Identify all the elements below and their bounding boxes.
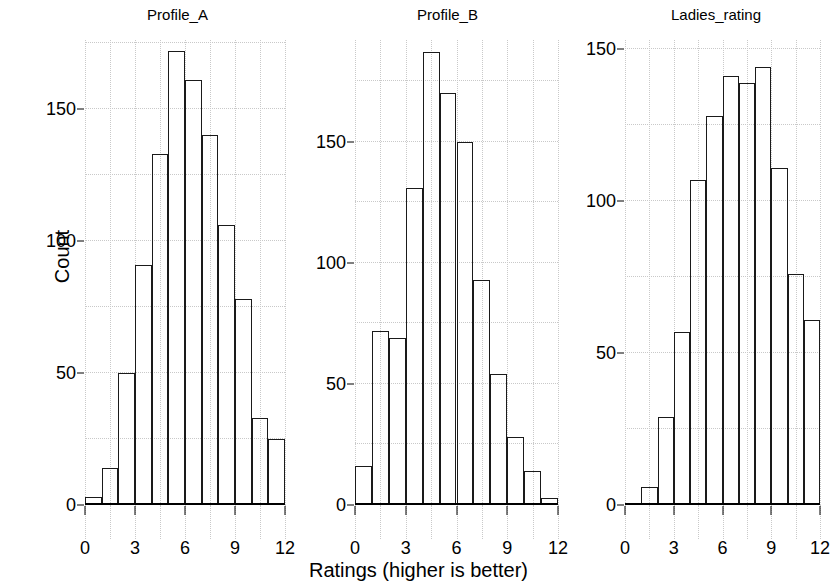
x-tick-label-profile-a-0: 0 [80,538,90,559]
histogram-bar [690,180,706,505]
histogram-bar [268,439,285,505]
gridline-vertical [820,40,821,505]
histogram-bar [507,437,524,505]
gridline-vertical [558,40,559,505]
histogram-bar [372,331,389,505]
histogram-bar [423,52,440,505]
histogram-bar [706,116,722,505]
x-tick-mark [355,506,356,515]
y-tick-mark [617,201,624,202]
y-tick-label-profile-a-100: 100 [46,230,76,251]
histogram-bar [440,93,457,505]
y-tick-mark [77,505,84,506]
panel-profile-b: Profile_B 150100500036912 [325,0,570,583]
y-tick-mark [77,372,84,373]
x-tick-label-ladies-rating-6: 6 [717,538,727,559]
gridline-vertical-extension [431,505,432,539]
y-tick-label-profile-a-50: 50 [56,362,76,383]
histogram-bar [218,225,235,505]
histogram-bar [355,466,372,505]
x-tick-label-ladies-rating-3: 3 [669,538,679,559]
gridline-vertical [110,40,111,505]
x-tick-label-profile-b-9: 9 [502,538,512,559]
y-tick-mark [617,505,624,506]
panel-title-profile-b: Profile_B [325,6,570,23]
y-tick-mark [77,240,84,241]
x-tick-mark [235,506,236,515]
x-tick-label-ladies-rating-0: 0 [620,538,630,559]
y-tick-mark [347,262,354,263]
x-tick-label-ladies-rating-12: 12 [810,538,830,559]
histogram-bar [235,299,252,505]
histogram-bar [168,51,185,505]
y-tick-label-profile-b-100: 100 [316,252,346,273]
y-tick-mark [347,383,354,384]
histogram-bar [135,265,152,505]
y-tick-label-ladies-rating-50: 50 [596,343,616,364]
x-tick-mark [722,506,723,515]
gridline-vertical [285,40,286,505]
gridline-vertical-extension [260,505,261,539]
x-tick-label-profile-a-9: 9 [230,538,240,559]
y-tick-mark [617,49,624,50]
gridline-vertical [355,40,356,505]
gridline-vertical-extension [698,505,699,539]
gridline-vertical [533,40,534,505]
gridline-vertical-extension [380,505,381,539]
x-tick-mark [673,506,674,515]
plot-area-profile-a: 150100500036912 [85,40,285,505]
x-tick-label-profile-b-12: 12 [548,538,568,559]
histogram-bar [490,374,507,505]
y-tick-label-ladies-rating-0: 0 [606,495,616,516]
x-tick-label-profile-a-6: 6 [180,538,190,559]
gridline-vertical [85,40,86,505]
y-tick-mark [347,141,354,142]
histogram-bar [755,67,771,505]
gridline-vertical [507,40,508,505]
x-tick-mark [558,506,559,515]
x-tick-mark [456,506,457,515]
x-tick-label-ladies-rating-9: 9 [766,538,776,559]
histogram-bar [524,471,541,505]
panel-title-ladies-rating: Ladies_rating [595,6,837,23]
gridline-vertical-extension [110,505,111,539]
y-tick-mark [347,505,354,506]
histogram-bar [389,338,406,505]
plot-area-profile-b: 150100500036912 [355,40,558,505]
x-tick-mark [185,506,186,515]
x-tick-label-profile-a-3: 3 [130,538,140,559]
y-tick-label-profile-b-0: 0 [336,495,346,516]
x-tick-label-profile-b-0: 0 [350,538,360,559]
gridline-vertical-extension [210,505,211,539]
y-tick-mark [77,108,84,109]
histogram-bar [473,280,490,505]
histogram-bar [457,142,474,505]
histogram-bar [804,320,820,505]
x-tick-label-profile-b-3: 3 [401,538,411,559]
x-tick-mark [771,506,772,515]
gridline-vertical-extension [533,505,534,539]
histogram-bar [739,83,755,505]
x-axis-line [625,503,820,505]
y-tick-label-ladies-rating-150: 150 [586,39,616,60]
y-tick-label-profile-a-0: 0 [66,495,76,516]
histogram-bar [152,154,169,505]
y-tick-mark [617,353,624,354]
histogram-bar [788,274,804,505]
x-tick-mark [135,506,136,515]
panel-title-profile-a: Profile_A [55,6,300,23]
x-tick-label-profile-b-6: 6 [451,538,461,559]
y-tick-label-profile-b-150: 150 [316,131,346,152]
gridline-vertical-extension [796,505,797,539]
y-tick-label-profile-a-150: 150 [46,98,76,119]
gridline-vertical-extension [649,505,650,539]
histogram-bar [674,332,690,505]
x-tick-mark [820,506,821,515]
x-axis-line [85,503,285,505]
x-tick-mark [85,506,86,515]
x-axis-line [355,503,558,505]
x-tick-mark [507,506,508,515]
gridline-vertical-extension [482,505,483,539]
x-tick-mark [405,506,406,515]
panel-ladies-rating: Ladies_rating 150100500036912 [595,0,837,583]
